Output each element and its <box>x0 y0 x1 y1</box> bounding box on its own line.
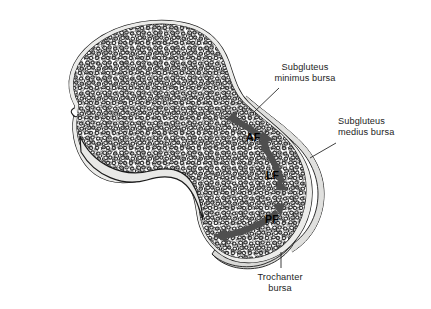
subgluteus-medius-bursa-label: Subgluteus medius bursa <box>338 116 431 139</box>
subgluteus-minimus-bursa-label: Subgluteus minimus bursa <box>253 62 357 85</box>
figure-canvas: AF LF PF Subgluteus minimus bursa Subglu… <box>0 0 431 309</box>
trochanter-line1: Trochanter <box>228 272 332 283</box>
trochanter-cross-section-illustration: AF LF PF <box>0 0 431 309</box>
leader-subgluteus-minimus <box>253 88 279 113</box>
femur-trochanter-bone-body <box>60 10 330 280</box>
posterior-facet-label: PF <box>265 213 279 225</box>
subgluteus-minimus-line1: Subgluteus <box>253 62 357 73</box>
leader-subgluteus-medius <box>310 143 336 158</box>
lateral-facet-label: LF <box>266 169 280 181</box>
trochanter-line2: bursa <box>228 283 332 294</box>
subgluteus-medius-line1: Subgluteus <box>338 116 431 127</box>
trochanter-bursa-label: Trochanter bursa <box>228 272 332 295</box>
anterior-facet-label: AF <box>246 131 261 143</box>
subgluteus-medius-line2: medius bursa <box>338 127 431 138</box>
subgluteus-minimus-line2: minimus bursa <box>253 73 357 84</box>
